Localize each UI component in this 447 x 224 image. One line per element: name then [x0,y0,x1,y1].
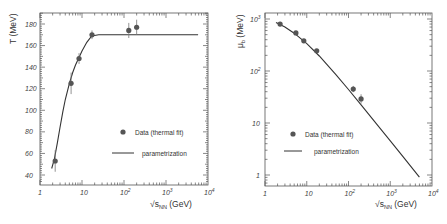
baryon-chemical-potential-chart: 110102103104110102103 μb (MeV) √sNN (GeV… [235,13,439,210]
y-tick-label: 10 [252,120,260,127]
legend-line-label: parametrization [314,148,359,156]
y-tick-label: 103 [250,14,261,23]
data-point [126,28,131,33]
legend-line-label: parametrization [142,150,187,158]
right-y-axis-label: μb (MeV) [235,14,246,48]
x-tick-label: 10 [305,190,313,197]
legend-marker-dot [290,131,295,136]
data-point [68,81,73,86]
left-axis-ticks: 110102103104406080100120140160180 [25,13,215,196]
y-tick-label: 102 [250,66,261,75]
x-tick-label: 102 [345,188,356,197]
y-tick-label: 120 [25,85,37,92]
data-point [278,21,283,26]
data-point [134,25,139,30]
data-point [314,48,319,53]
x-tick-label: 102 [120,187,131,196]
x-tick-label: 103 [162,187,173,196]
legend-data-label: Data (thermal fit) [135,129,183,137]
data-point [89,32,94,37]
data-point [358,96,363,101]
right-plot-frame [265,13,432,186]
y-tick-label: 1 [256,172,260,179]
y-tick-label: 60 [25,150,33,157]
data-point [53,158,58,163]
left-y-axis-label: T (MeV) [8,13,18,44]
x-tick-label: 1 [263,190,267,197]
y-tick-label: 80 [25,128,33,135]
data-point [76,56,81,61]
x-tick-label: 1 [38,189,42,196]
y-tick-label: 160 [25,42,37,49]
y-tick-label: 40 [25,172,33,179]
y-tick-label: 100 [25,107,37,114]
y-tick-label: 180 [25,21,37,28]
data-point [301,38,306,43]
right-axis-ticks: 110102103104110102103 [250,13,439,197]
right-legend: Data (thermal fit) parametrization [284,131,359,156]
left-legend: Data (thermal fit) parametrization [112,129,187,158]
y-tick-label: 140 [25,64,37,71]
data-point [351,86,356,91]
legend-data-label: Data (thermal fit) [305,131,353,139]
x-tick-label: 10 [80,189,88,196]
left-x-axis-label: √sNN (GeV) [150,199,192,210]
right-x-axis-label: √sNN (GeV) [375,199,417,210]
data-point [293,30,298,35]
legend-marker-dot [120,129,125,134]
parametrization-curve [52,35,198,169]
temperature-chart: 110102103104406080100120140160180 T (MeV… [8,13,215,210]
x-tick-label: 103 [386,188,397,197]
x-tick-label: 104 [428,188,439,197]
figure: 110102103104406080100120140160180 T (MeV… [0,0,447,224]
x-tick-label: 104 [204,187,215,196]
